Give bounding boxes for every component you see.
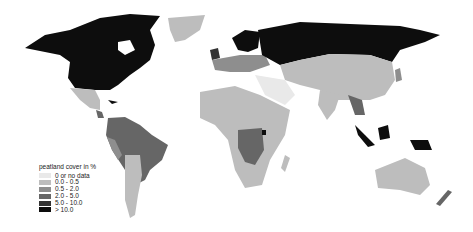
region-uk bbox=[210, 48, 220, 60]
region-asia bbox=[280, 54, 395, 100]
legend-swatch bbox=[39, 187, 51, 192]
legend-swatch bbox=[39, 180, 51, 185]
region-greenland bbox=[168, 15, 205, 42]
legend-title: peatland cover in % bbox=[39, 164, 96, 171]
legend-swatch bbox=[39, 173, 51, 178]
map-legend: peatland cover in % 0 or no data 0.0 - 0… bbox=[39, 164, 96, 213]
legend-item: > 10.0 bbox=[39, 206, 96, 213]
region-indonesia bbox=[355, 125, 432, 150]
legend-swatch bbox=[39, 207, 51, 212]
legend-swatch bbox=[39, 194, 51, 199]
region-india bbox=[318, 90, 340, 120]
region-scandinavia bbox=[232, 30, 260, 52]
region-australia bbox=[375, 158, 430, 195]
region-canada-usa bbox=[25, 14, 160, 90]
region-mexico bbox=[70, 88, 100, 110]
legend-swatch bbox=[39, 201, 51, 206]
region-europe bbox=[212, 55, 270, 72]
